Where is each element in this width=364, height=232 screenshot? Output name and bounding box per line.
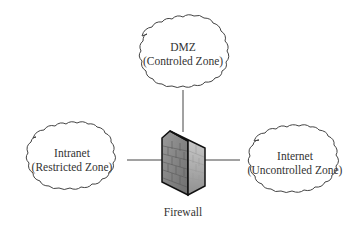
network-diagram [0, 0, 364, 232]
firewall-icon [162, 131, 205, 195]
zone-title: Intranet [20, 146, 124, 160]
zone-title: Internet [240, 149, 350, 163]
zone-label-dmz: DMZ (Controled Zone) [133, 40, 233, 68]
firewall-label: Firewall [153, 205, 213, 219]
zone-label-internet: Internet (Uncontrolled Zone) [240, 149, 350, 177]
zone-subtitle: (Uncontrolled Zone) [240, 163, 350, 177]
zone-subtitle: (Restricted Zone) [20, 160, 124, 174]
firewall-label-text: Firewall [153, 205, 213, 219]
zone-title: DMZ [133, 40, 233, 54]
zone-label-intranet: Intranet (Restricted Zone) [20, 146, 124, 174]
zone-subtitle: (Controled Zone) [133, 54, 233, 68]
